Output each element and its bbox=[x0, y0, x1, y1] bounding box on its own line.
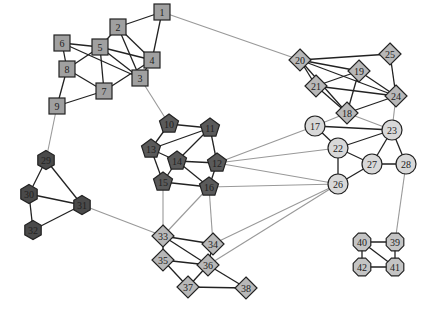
node-30[interactable]: 30 bbox=[21, 185, 37, 204]
node-label: 38 bbox=[241, 283, 251, 294]
node-26[interactable]: 26 bbox=[328, 174, 348, 194]
node-32[interactable]: 32 bbox=[25, 221, 41, 240]
node-28[interactable]: 28 bbox=[396, 154, 416, 174]
node-label: 12 bbox=[212, 158, 222, 169]
node-label: 28 bbox=[401, 159, 411, 170]
node-label: 42 bbox=[357, 262, 367, 273]
node-31[interactable]: 31 bbox=[74, 196, 90, 215]
node-label: 37 bbox=[183, 282, 193, 293]
node-label: 25 bbox=[385, 49, 395, 60]
node-22[interactable]: 22 bbox=[328, 138, 348, 158]
node-label: 10 bbox=[164, 119, 174, 130]
edge-28-39 bbox=[395, 164, 406, 242]
node-39[interactable]: 39 bbox=[386, 233, 404, 251]
node-label: 39 bbox=[390, 237, 400, 248]
edge-31-33 bbox=[82, 205, 163, 236]
node-label: 18 bbox=[342, 108, 352, 119]
node-label: 9 bbox=[55, 101, 60, 112]
node-label: 1 bbox=[160, 7, 165, 18]
node-label: 21 bbox=[311, 81, 321, 92]
node-label: 31 bbox=[77, 200, 87, 211]
node-label: 19 bbox=[354, 66, 364, 77]
network-graph: 1234567891011121314151617181920212223242… bbox=[0, 0, 430, 314]
node-label: 20 bbox=[295, 55, 305, 66]
node-4[interactable]: 4 bbox=[144, 52, 160, 68]
edge-16-33 bbox=[163, 187, 209, 236]
node-20[interactable]: 20 bbox=[289, 49, 311, 71]
node-label: 27 bbox=[367, 159, 377, 170]
edge-17-23 bbox=[315, 126, 392, 130]
node-38[interactable]: 38 bbox=[235, 277, 257, 299]
node-label: 11 bbox=[205, 123, 215, 134]
node-label: 23 bbox=[387, 125, 397, 136]
node-41[interactable]: 41 bbox=[386, 258, 404, 276]
edge-12-26 bbox=[217, 163, 338, 184]
node-42[interactable]: 42 bbox=[353, 258, 371, 276]
node-27[interactable]: 27 bbox=[362, 154, 382, 174]
node-label: 3 bbox=[138, 73, 143, 84]
node-34[interactable]: 34 bbox=[202, 233, 224, 255]
node-label: 14 bbox=[172, 156, 182, 167]
node-25[interactable]: 25 bbox=[379, 43, 401, 65]
node-label: 15 bbox=[158, 177, 168, 188]
node-layer: 1234567891011121314151617181920212223242… bbox=[21, 4, 416, 299]
node-8[interactable]: 8 bbox=[59, 61, 75, 77]
node-label: 13 bbox=[146, 144, 156, 155]
node-label: 7 bbox=[102, 86, 107, 97]
node-23[interactable]: 23 bbox=[382, 120, 402, 140]
node-label: 22 bbox=[333, 143, 343, 154]
node-label: 32 bbox=[28, 225, 38, 236]
node-3[interactable]: 3 bbox=[132, 70, 148, 86]
node-40[interactable]: 40 bbox=[353, 233, 371, 251]
node-label: 2 bbox=[116, 22, 121, 33]
node-1[interactable]: 1 bbox=[154, 4, 170, 20]
edge-26-34 bbox=[213, 184, 338, 244]
node-10[interactable]: 10 bbox=[160, 114, 179, 132]
node-12[interactable]: 12 bbox=[208, 153, 227, 171]
node-label: 34 bbox=[208, 239, 218, 250]
node-label: 6 bbox=[60, 38, 65, 49]
node-11[interactable]: 11 bbox=[201, 118, 220, 136]
node-label: 17 bbox=[310, 121, 320, 132]
node-label: 8 bbox=[65, 64, 70, 75]
node-label: 41 bbox=[390, 262, 400, 273]
node-13[interactable]: 13 bbox=[142, 139, 161, 157]
node-24[interactable]: 24 bbox=[385, 85, 407, 107]
node-label: 36 bbox=[203, 260, 213, 271]
node-29[interactable]: 29 bbox=[38, 151, 54, 170]
node-label: 5 bbox=[98, 42, 103, 53]
node-18[interactable]: 18 bbox=[336, 102, 358, 124]
node-15[interactable]: 15 bbox=[154, 172, 173, 190]
node-7[interactable]: 7 bbox=[96, 83, 112, 99]
node-2[interactable]: 2 bbox=[110, 19, 126, 35]
node-label: 4 bbox=[150, 55, 155, 66]
node-label: 16 bbox=[204, 182, 214, 193]
node-label: 35 bbox=[158, 255, 168, 266]
node-9[interactable]: 9 bbox=[49, 98, 65, 114]
edge-20-25 bbox=[300, 54, 390, 60]
node-label: 30 bbox=[24, 189, 34, 200]
node-label: 24 bbox=[391, 91, 401, 102]
node-6[interactable]: 6 bbox=[54, 35, 70, 51]
node-label: 33 bbox=[158, 231, 168, 242]
node-label: 26 bbox=[333, 179, 343, 190]
node-label: 40 bbox=[357, 237, 367, 248]
edge-16-26 bbox=[209, 184, 338, 187]
node-17[interactable]: 17 bbox=[305, 116, 325, 136]
edge-1-20 bbox=[162, 12, 300, 60]
edge-26-36 bbox=[208, 184, 338, 265]
node-21[interactable]: 21 bbox=[305, 75, 327, 97]
node-16[interactable]: 16 bbox=[200, 177, 219, 195]
node-5[interactable]: 5 bbox=[92, 39, 108, 55]
edge-12-22 bbox=[217, 148, 338, 163]
node-label: 29 bbox=[41, 155, 51, 166]
